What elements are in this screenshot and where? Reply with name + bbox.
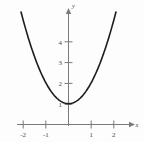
x-tick-label: -1 bbox=[43, 131, 49, 139]
x-axis: x bbox=[17, 121, 139, 128]
y-tick-label: 2 bbox=[59, 80, 63, 88]
y-axis-label: y bbox=[71, 2, 75, 9]
x-axis-arrow-icon bbox=[129, 122, 135, 127]
y-tick-label: 4 bbox=[59, 39, 63, 47]
x-axis-label: x bbox=[135, 121, 139, 128]
y-tick-label: 3 bbox=[59, 59, 63, 67]
x-tick-labels: -2 -1 1 2 bbox=[20, 131, 116, 139]
x-tick-label: -2 bbox=[20, 131, 26, 139]
parabola-chart-figure: x y -2 -1 1 2 bbox=[0, 0, 144, 142]
y-axis: y bbox=[66, 2, 75, 127]
x-tick-label: 1 bbox=[89, 131, 93, 139]
x-tick-label: 2 bbox=[112, 131, 116, 139]
y-tick-labels: 1 2 3 4 bbox=[59, 39, 63, 109]
plot-area: x y -2 -1 1 2 bbox=[0, 0, 144, 142]
y-axis-arrow-icon bbox=[66, 8, 71, 14]
